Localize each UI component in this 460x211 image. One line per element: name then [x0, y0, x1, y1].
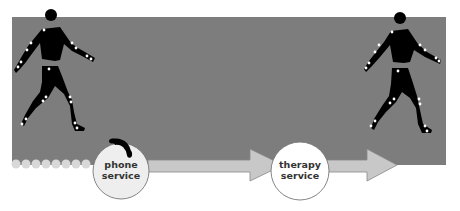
- therapy-label-line2: service: [272, 170, 328, 181]
- diagram-canvas: [0, 0, 460, 211]
- therapy-label-line1: therapy: [272, 159, 328, 170]
- phone-label-line2: service: [96, 170, 146, 181]
- diagram: phone service therapy service: [0, 0, 460, 211]
- gray-panel: [12, 17, 446, 165]
- therapy-service-label: therapy service: [272, 159, 328, 181]
- phone-label-line1: phone: [96, 159, 146, 170]
- phone-service-label: phone service: [96, 159, 146, 181]
